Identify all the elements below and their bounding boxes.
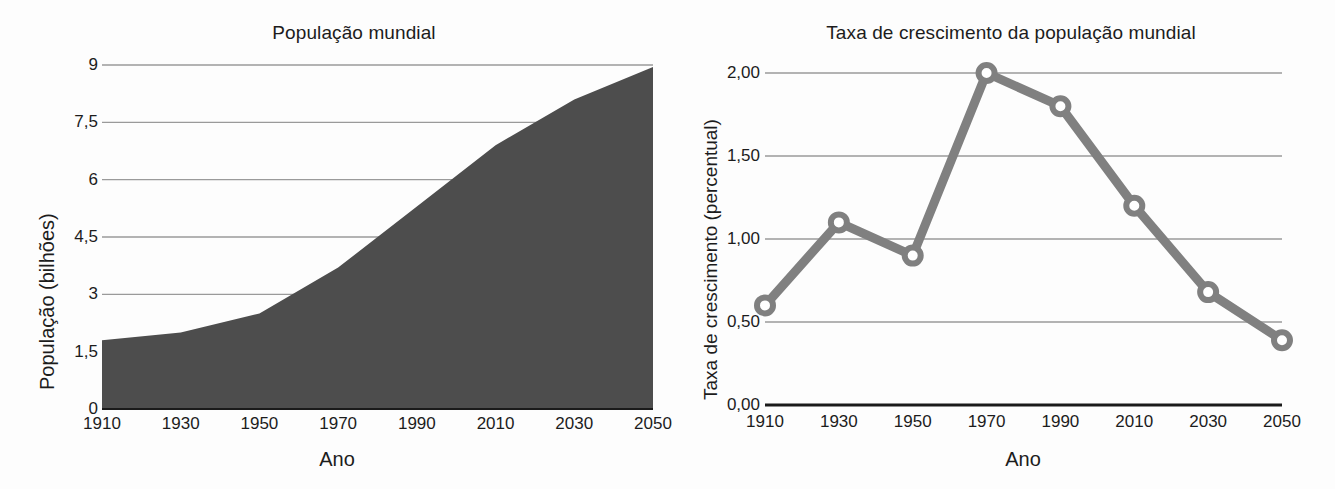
y-tick-label: 1,00 <box>727 229 760 249</box>
data-point-marker <box>1274 332 1290 348</box>
x-tick-label: 1910 <box>83 414 121 434</box>
x-tick-label: 2010 <box>1115 412 1153 432</box>
x-tick-label: 1970 <box>319 414 357 434</box>
plot-area-growth-rate <box>765 65 1282 410</box>
chart-panel-world-population: População mundial População (bilhões) An… <box>0 0 668 489</box>
x-axis-title-year: Ano <box>319 448 355 471</box>
figure-container: População mundial População (bilhões) An… <box>0 0 1335 489</box>
y-tick-label: 1,5 <box>74 342 98 362</box>
area-series-population <box>102 67 653 409</box>
data-point-marker <box>905 248 921 264</box>
x-tick-label: 1970 <box>968 412 1006 432</box>
data-point-marker <box>1052 98 1068 114</box>
x-tick-label: 2030 <box>1189 412 1227 432</box>
data-point-marker <box>1126 198 1142 214</box>
x-tick-label: 1950 <box>241 414 279 434</box>
data-point-marker <box>757 297 773 313</box>
y-tick-label: 4,5 <box>74 227 98 247</box>
x-axis-tick-labels-year-right: 19101930195019701990201020302050 <box>667 412 1335 436</box>
data-point-marker <box>1200 284 1216 300</box>
line-chart-svg <box>765 65 1282 410</box>
x-axis-title-year-right: Ano <box>1005 448 1041 471</box>
x-axis-tick-labels-year-left: 19101930195019701990201020302050 <box>0 414 668 438</box>
x-tick-label: 1930 <box>162 414 200 434</box>
area-chart-svg <box>102 60 653 412</box>
y-tick-label: 1,50 <box>727 146 760 166</box>
y-tick-label: 7,5 <box>74 112 98 132</box>
data-point-marker <box>979 65 995 81</box>
y-tick-label: 2,00 <box>727 63 760 83</box>
x-tick-label: 2050 <box>1263 412 1301 432</box>
x-tick-label: 1990 <box>1042 412 1080 432</box>
x-tick-label: 2010 <box>477 414 515 434</box>
x-tick-label: 1950 <box>894 412 932 432</box>
x-tick-label: 1930 <box>820 412 858 432</box>
x-tick-label: 2030 <box>555 414 593 434</box>
plot-area-world-population <box>102 60 653 412</box>
y-tick-label: 3 <box>89 284 98 304</box>
x-tick-label: 1990 <box>398 414 436 434</box>
y-tick-label: 6 <box>89 170 98 190</box>
y-tick-label: 0,50 <box>727 312 760 332</box>
x-tick-label: 1910 <box>746 412 784 432</box>
chart-title-world-population: População mundial <box>0 22 668 44</box>
chart-title-growth-rate: Taxa de crescimento da população mundial <box>667 22 1335 44</box>
y-tick-label: 9 <box>89 55 98 75</box>
data-point-marker <box>831 214 847 230</box>
